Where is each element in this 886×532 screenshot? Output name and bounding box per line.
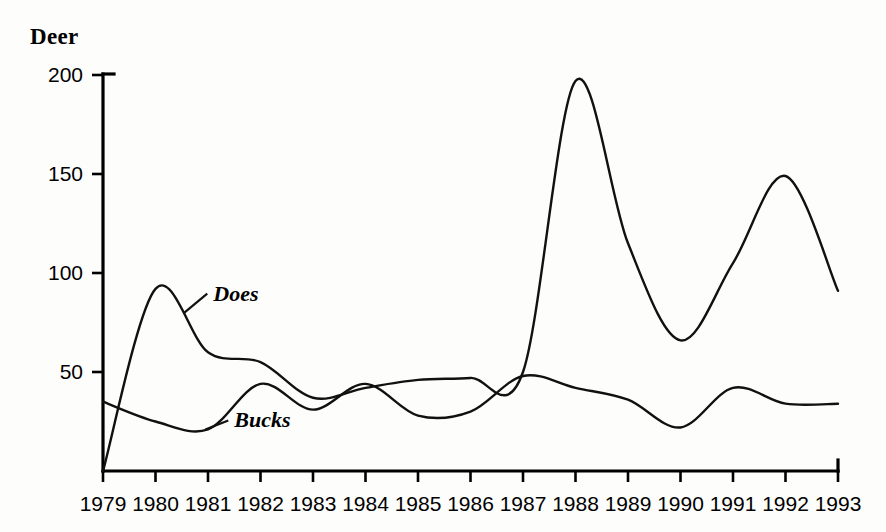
x-tick-label: 1986	[447, 492, 494, 515]
x-tick-label: 1979	[80, 492, 127, 515]
line-chart: 50100150200 1979198019811982198319841985…	[0, 0, 886, 532]
x-tick-label: 1991	[710, 492, 757, 515]
chart-page: Deer 50100150200 19791980198119821983198…	[0, 0, 886, 532]
x-tick-label: 1989	[605, 492, 652, 515]
series-group	[103, 79, 838, 471]
y-tick-label: 50	[60, 360, 83, 383]
x-tick-label: 1992	[762, 492, 809, 515]
y-tick-group: 50100150200	[48, 63, 103, 383]
annotation-leader-does	[184, 294, 207, 313]
x-tick-label: 1981	[185, 492, 232, 515]
x-tick-group: 1979198019811982198319841985198619871988…	[80, 471, 862, 515]
y-tick-label: 150	[48, 162, 83, 185]
x-tick-label: 1985	[395, 492, 442, 515]
series-label-does: Does	[212, 281, 258, 306]
y-tick-label: 200	[48, 63, 83, 86]
x-tick-label: 1993	[815, 492, 862, 515]
x-tick-label: 1988	[552, 492, 599, 515]
y-tick-label: 100	[48, 261, 83, 284]
annotation-leader-bucks	[205, 420, 228, 429]
x-tick-label: 1983	[290, 492, 337, 515]
x-tick-label: 1987	[500, 492, 547, 515]
series-line-bucks	[103, 375, 838, 431]
x-tick-label: 1984	[342, 492, 389, 515]
series-label-bucks: Bucks	[233, 407, 290, 432]
x-tick-label: 1990	[657, 492, 704, 515]
annotation-group: DoesBucks	[184, 281, 290, 433]
x-tick-label: 1982	[237, 492, 284, 515]
x-tick-label: 1980	[132, 492, 179, 515]
